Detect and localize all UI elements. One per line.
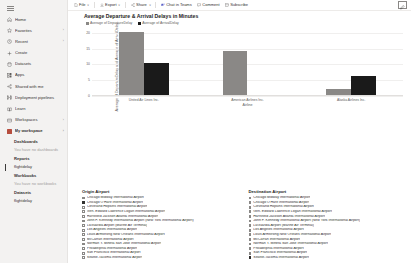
slicer-item[interactable]: Seattle-Tacoma International Airport <box>249 255 406 260</box>
checkbox-icon[interactable] <box>82 206 85 209</box>
y-tick-label: 10 <box>86 62 90 66</box>
slicer-item-label: Hartsfield Jackson Atlanta International… <box>253 215 325 219</box>
sidebar-item-home[interactable]: Home <box>0 14 67 25</box>
checkbox-icon[interactable] <box>249 238 252 241</box>
export-menu-button[interactable]: Export ∨ <box>98 2 122 8</box>
checkbox-icon[interactable] <box>82 197 85 200</box>
sidebar-item-label: Recent <box>15 40 60 44</box>
plus-icon <box>7 51 12 56</box>
sidebar-item-datasets[interactable]: Datasets <box>0 59 67 70</box>
checkbox-icon[interactable] <box>249 247 252 250</box>
comment-button[interactable]: Comment <box>195 2 221 8</box>
sidebar-item-workspaces[interactable]: Workspaces› <box>0 115 67 126</box>
origin-airport-list: Chicago Midway International AirportChic… <box>82 196 239 260</box>
checkbox-icon[interactable] <box>249 210 252 213</box>
empty-state-text: You have no workbooks <box>0 180 67 188</box>
sidebar-item-label: Favorites <box>15 29 60 33</box>
sidebar-item-label: Create <box>15 51 64 55</box>
bar-chart-visual[interactable]: Average of DepartureDelay and Average of… <box>72 26 407 108</box>
checkbox-icon[interactable] <box>249 215 252 218</box>
checkbox-icon[interactable] <box>82 224 85 227</box>
star-icon <box>7 28 12 33</box>
legend-item[interactable]: Average of ArrivalDelay <box>138 22 179 26</box>
bar[interactable] <box>326 89 351 95</box>
slicer-item-label: LaGuardia Airport (Marine Air Terminal) <box>87 224 148 228</box>
chevron-right-icon: › <box>63 29 64 32</box>
checkbox-icon[interactable] <box>82 229 85 232</box>
export-icon <box>99 3 103 7</box>
sidebar-subitem-flightdelay[interactable]: flightdelay <box>0 197 67 205</box>
checkbox-checked-icon[interactable] <box>82 201 85 204</box>
bar[interactable] <box>144 63 169 95</box>
slicer-item-label: LaGuardia Airport (Marine Air Terminal) <box>253 224 314 228</box>
checkbox-icon[interactable] <box>82 256 85 259</box>
chart-legend: Average of DepartureDelayAverage of Arri… <box>72 19 407 25</box>
slicer-item-label: Chicago Midway International Airport <box>87 196 144 200</box>
checkbox-icon[interactable] <box>249 224 252 227</box>
checkbox-icon[interactable] <box>82 220 85 223</box>
checkbox-checked-icon[interactable] <box>249 256 252 259</box>
slicer-item-label: John F. Kennedy International Airport (N… <box>253 219 360 223</box>
sidebar-item-deployment-pipelines[interactable]: Deployment pipelines <box>0 92 67 103</box>
legend-item[interactable]: Average of DepartureDelay <box>86 22 132 26</box>
legend-swatch <box>138 22 141 25</box>
share-icon <box>7 84 12 89</box>
chat-in-teams-button[interactable]: T Chat in Teams <box>159 2 193 8</box>
origin-airport-slicer: Origin Airport Chicago Midway Internatio… <box>82 190 239 260</box>
checkbox-icon[interactable] <box>82 210 85 213</box>
destination-airport-list: Chicago Midway International AirportChic… <box>249 196 406 260</box>
checkbox-icon[interactable] <box>249 229 252 232</box>
bar[interactable] <box>223 51 248 96</box>
checkbox-icon[interactable] <box>249 220 252 223</box>
checkbox-icon[interactable] <box>249 197 252 200</box>
gridline <box>92 96 403 97</box>
checkbox-icon[interactable] <box>82 215 85 218</box>
book-icon <box>7 107 12 112</box>
sidebar-subitem-flightdelay[interactable]: flightdelay <box>0 163 67 171</box>
hamburger-menu-button[interactable] <box>0 3 67 14</box>
sidebar-item-label: Apps <box>15 73 64 77</box>
y-axis-ticks: 05101520 <box>81 26 90 96</box>
sidebar-item-learn[interactable]: Learn <box>0 104 67 115</box>
slicer-item-label: McCarran International Airport <box>87 238 134 242</box>
y-tick-label: 0 <box>88 94 90 98</box>
checkbox-icon[interactable] <box>82 238 85 241</box>
file-label: File <box>79 3 85 7</box>
sidebar-item-favorites[interactable]: Favorites› <box>0 25 67 36</box>
slicer-item[interactable]: Seattle-Tacoma International Airport <box>82 255 239 260</box>
sidebar-item-apps[interactable]: Apps <box>0 70 67 81</box>
sidebar-item-shared-with-me[interactable]: Shared with me <box>0 81 67 92</box>
checkbox-icon[interactable] <box>82 243 85 246</box>
checkbox-icon[interactable] <box>82 252 85 255</box>
share-button[interactable]: Share ∨ <box>129 2 152 8</box>
y-tick-label: 5 <box>88 78 90 82</box>
slicer-item-label: Los Angeles International Airport <box>253 228 303 232</box>
sidebar-item-my-workspace[interactable]: My workspace› <box>0 126 67 137</box>
bar[interactable] <box>351 76 376 95</box>
file-menu-button[interactable]: File ∨ <box>72 2 91 8</box>
sidebar-item-create[interactable]: Create <box>0 48 67 59</box>
checkbox-icon[interactable] <box>82 233 85 236</box>
checkbox-icon[interactable] <box>249 201 252 204</box>
subscribe-icon <box>225 3 229 7</box>
x-tick-label: United Air Lines Inc. <box>129 98 159 102</box>
power-bi-report-window: HomeFavorites›Recent›CreateDatasetsAppsS… <box>0 0 411 263</box>
teams-icon: T <box>161 3 165 7</box>
checkbox-icon[interactable] <box>249 206 252 209</box>
chevron-down-icon: ∨ <box>149 4 151 7</box>
sidebar-item-label: Home <box>15 18 64 22</box>
legend-label: Average of DepartureDelay <box>90 22 132 26</box>
comment-icon <box>197 3 201 7</box>
subscribe-button[interactable]: Subscribe <box>223 2 249 8</box>
bar[interactable] <box>119 32 144 96</box>
bar-group <box>326 76 376 95</box>
checkbox-icon[interactable] <box>249 243 252 246</box>
report-canvas: Average Departure & Arrival Delays in Mi… <box>68 11 411 188</box>
toolbar-divider <box>155 2 156 8</box>
edit-button[interactable] <box>398 1 407 9</box>
checkbox-icon[interactable] <box>82 247 85 250</box>
checkbox-icon[interactable] <box>249 233 252 236</box>
workspaces-icon <box>7 118 12 123</box>
checkbox-icon[interactable] <box>249 252 252 255</box>
sidebar-item-recent[interactable]: Recent› <box>0 36 67 47</box>
